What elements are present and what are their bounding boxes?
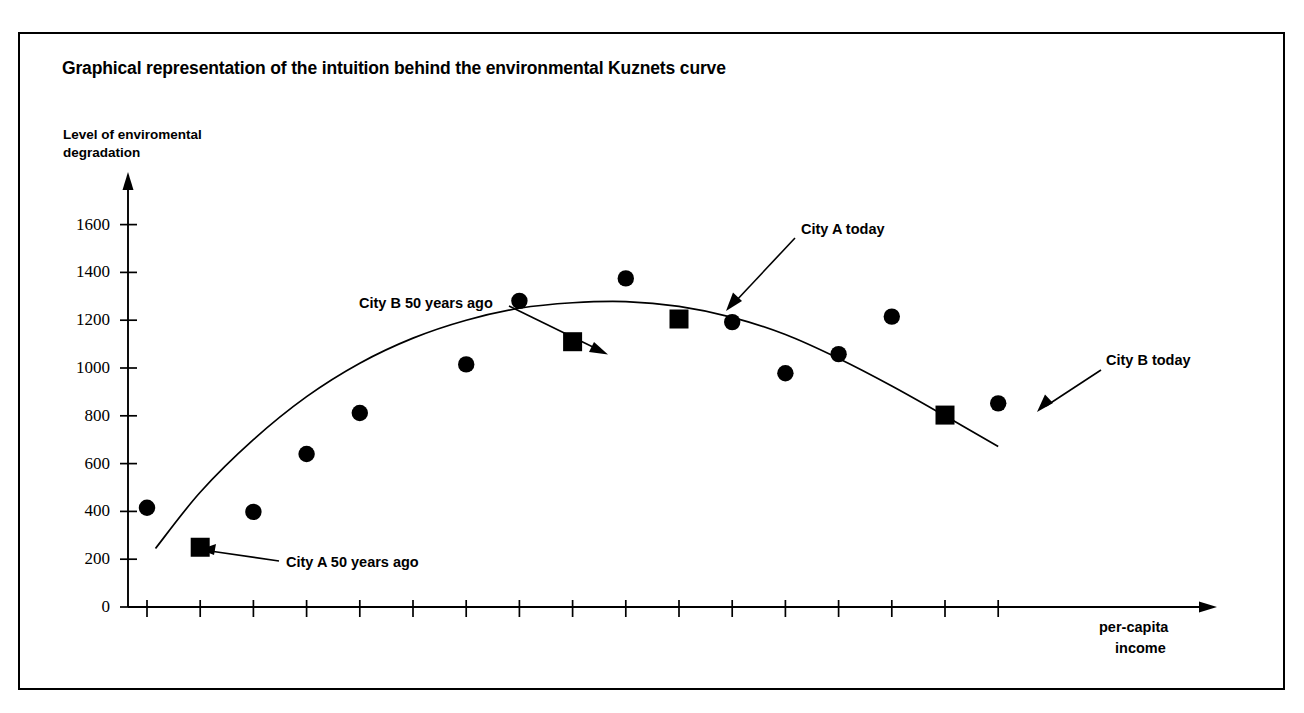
arrowhead-city-a-today [726,293,742,312]
y-tick-label: 200 [85,549,111,568]
annotation-label-city-a-50: City A 50 years ago [286,554,419,570]
annotation-label-city-a-today: City A today [801,221,885,237]
x-axis-title: per-capita income [1099,619,1169,656]
x-tick-label: 5500 [405,689,422,690]
arrowhead-city-b-50 [589,342,608,355]
x-axis-arrowhead [1199,602,1217,613]
y-tick-label: 1600 [76,215,110,234]
x-tick-label: 4000 [245,689,262,690]
y-axis [123,172,134,607]
kuznets-curve-plot: 02004006008001000120014001600 3000350040… [20,34,1285,690]
x-tick-label: 10500 [937,689,954,690]
y-axis-arrowhead [123,172,134,190]
data-point-circle [724,314,740,330]
x-tick-label: 6000 [458,689,475,690]
annotation-city-a-today: City A today [726,221,885,311]
x-tick-label: 4500 [298,689,315,690]
figure-frame: Graphical representation of the intuitio… [18,32,1285,690]
x-tick-label: 6500 [511,689,528,690]
data-point-square [936,406,955,425]
x-axis-title-line2: income [1115,640,1166,656]
x-tick-label: 8000 [671,689,688,690]
data-point-circle [618,270,634,286]
data-point-circle [298,446,314,462]
data-point-circle [990,395,1006,411]
annotation-label-city-b-50: City B 50 years ago [359,295,493,311]
y-tick-label: 1400 [76,262,110,281]
x-tick-label: 7500 [617,689,634,690]
x-tick-label: 3000 [139,689,156,690]
annotation-city-a-50-years-ago: City A 50 years ago [200,544,419,570]
y-tick-label: 600 [85,454,111,473]
x-tick-label: 3500 [192,689,209,690]
data-point-circle [830,346,846,362]
y-tick-label: 800 [85,406,111,425]
arrowhead-city-b-today [1037,395,1053,413]
annotation-city-b-today: City B today [1037,352,1191,412]
x-tick-group: 3000350040004500500055006000650070007500… [139,600,1007,690]
data-point-circle [884,308,900,324]
x-tick-label: 9000 [777,689,794,690]
data-point-circle [458,356,474,372]
annotation-label-city-b-today: City B today [1106,352,1191,368]
x-tick-label: 11000 [990,689,1007,690]
x-tick-label: 10000 [883,689,900,690]
data-point-circle [511,293,527,309]
x-tick-label: 7000 [564,689,581,690]
y-tick-label: 0 [102,597,111,616]
data-point-square [563,332,582,351]
data-point-circle [139,500,155,516]
x-axis [128,602,1217,613]
data-point-square [670,310,689,329]
x-tick-label: 8500 [724,689,741,690]
x-tick-label: 9500 [830,689,847,690]
y-tick-label: 1000 [76,358,110,377]
data-point-circle [245,504,261,520]
data-point-circle [352,405,368,421]
scatter-circle-markers [139,270,1007,520]
x-tick-label: 5000 [351,689,368,690]
y-tick-label: 400 [85,501,111,520]
x-axis-title-line1: per-capita [1099,619,1169,635]
data-point-circle [777,365,793,381]
y-tick-label: 1200 [76,310,110,329]
